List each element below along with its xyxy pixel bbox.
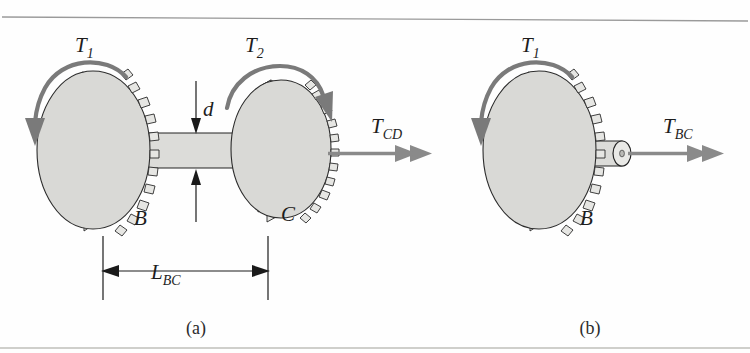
label-d: d <box>203 97 214 121</box>
torque-vector-TBC <box>628 145 724 162</box>
dimension-LBC <box>101 236 270 300</box>
label-B-a: B <box>134 206 147 230</box>
figure-container: T1 T2 TCD d B C LBC (a) <box>0 0 750 353</box>
top-rule <box>2 17 748 21</box>
label-C-a: C <box>281 202 296 226</box>
panel-b: T1 TBC B (b) <box>471 33 724 339</box>
label-TCD: TCD <box>371 114 402 142</box>
label-TBC: TBC <box>663 114 693 142</box>
torque-vector-TCD <box>328 145 432 162</box>
caption-a: (a) <box>186 318 206 339</box>
label-T2-a: T2 <box>245 33 264 61</box>
label-B-b: B <box>580 206 593 230</box>
label-T1-b: T1 <box>521 33 540 61</box>
caption-b: (b) <box>580 318 601 339</box>
label-LBC: LBC <box>150 260 181 288</box>
panel-a: T1 T2 TCD d B C LBC (a) <box>25 33 432 339</box>
engineering-figure: T1 T2 TCD d B C LBC (a) <box>0 0 750 353</box>
label-T1-a: T1 <box>75 33 94 61</box>
